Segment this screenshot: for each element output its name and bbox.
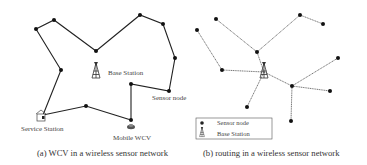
routing-edge	[291, 86, 292, 121]
sensor-nodes-a	[34, 13, 177, 122]
service-station-label: Service Station	[21, 125, 64, 133]
sensor-node	[94, 49, 98, 53]
sensor-node	[195, 28, 199, 32]
routing-edges	[197, 15, 338, 121]
legend: Sensor node Base Station	[196, 118, 272, 139]
routing-edge	[264, 72, 292, 86]
sensor-node	[129, 118, 133, 122]
sensor-node	[321, 22, 325, 26]
sensor-node	[84, 104, 88, 108]
sensor-node	[289, 119, 293, 123]
routing-edge	[222, 70, 264, 72]
sensor-node	[161, 22, 165, 26]
legend-sensor-node-label: Sensor node	[217, 119, 249, 126]
sensor-nodes-b	[195, 13, 340, 123]
sensor-node	[328, 89, 332, 93]
panel-b-routing: Sensor node Base Station (b) routing in …	[195, 13, 340, 158]
sensor-node	[173, 56, 177, 60]
routing-edge	[292, 86, 330, 91]
caption-a: (a) WCV in a wireless sensor network	[37, 148, 169, 158]
sensor-node	[59, 68, 63, 72]
sensor-node-label: Sensor node	[152, 94, 186, 102]
sensor-node	[52, 18, 56, 22]
figure-canvas: Base Station Sensor node Service Station…	[0, 0, 367, 165]
routing-edge	[292, 58, 338, 86]
mobile-wcv-label: Mobile WCV	[113, 134, 151, 142]
routing-edge	[257, 15, 300, 52]
sensor-node	[129, 82, 133, 86]
sensor-node	[255, 50, 259, 54]
legend-sensor-node-icon	[200, 121, 204, 125]
sensor-node	[220, 68, 224, 72]
base-station-label: Base Station	[108, 69, 144, 77]
panel-a-wcv-tour: Base Station Sensor node Service Station…	[21, 13, 186, 158]
sensor-node	[245, 105, 249, 109]
base-station-icon	[92, 62, 100, 78]
routing-edge	[197, 30, 222, 70]
sensor-node	[34, 27, 38, 31]
wcv-tour-path	[36, 15, 175, 120]
caption-b: (b) routing in a wireless sensor network	[203, 148, 340, 158]
sensor-node	[214, 17, 218, 21]
routing-edge	[216, 19, 257, 52]
sensor-node	[298, 13, 302, 17]
sensor-node	[290, 84, 294, 88]
routing-edge	[247, 72, 264, 107]
sensor-node	[336, 56, 340, 60]
routing-edge	[300, 15, 323, 24]
mobile-wcv-icon	[127, 124, 135, 129]
legend-base-station-label: Base Station	[217, 130, 250, 137]
sensor-node	[167, 89, 171, 93]
sensor-node	[138, 13, 142, 17]
